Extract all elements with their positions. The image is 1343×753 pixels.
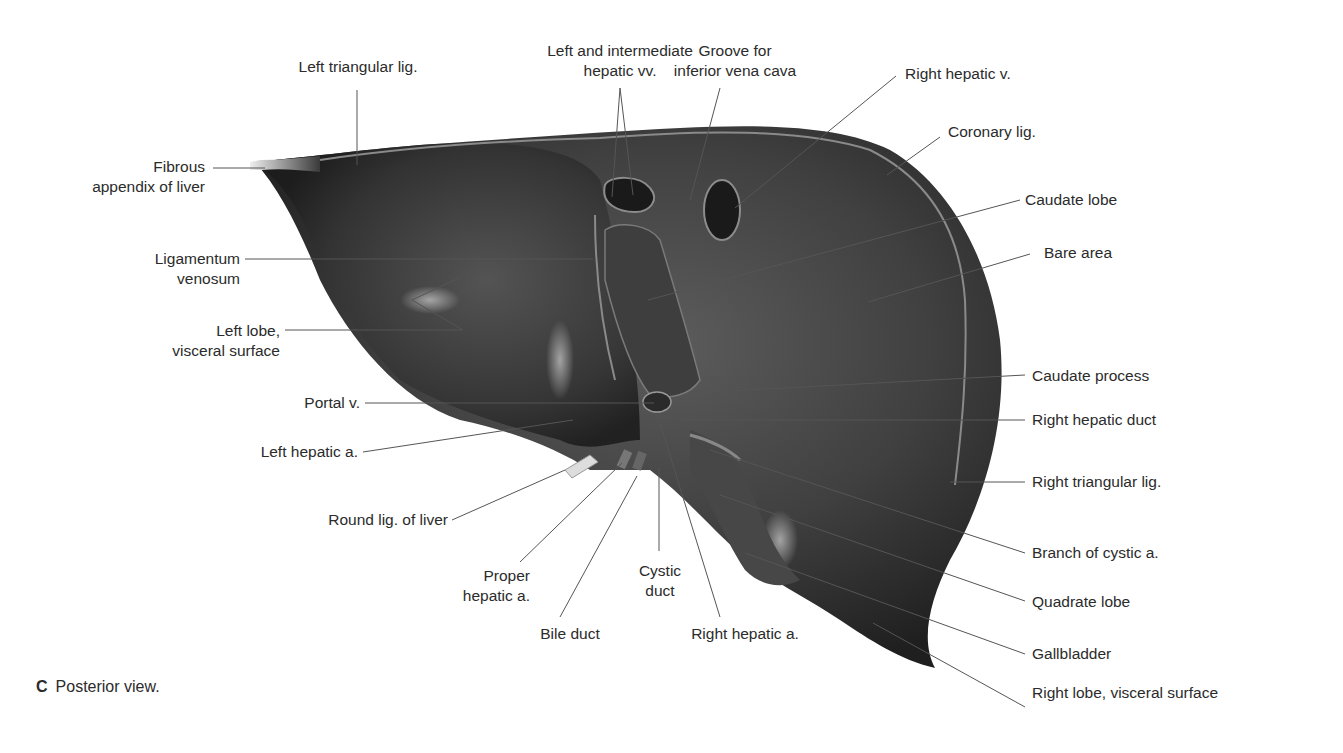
- label-line-1: Cystic: [630, 561, 690, 581]
- label-right-lobe-visceral: Right lobe, visceral surface: [1032, 683, 1218, 703]
- label-line-1: Ligamentum: [100, 249, 240, 269]
- right-hepatic-vein-opening: [704, 180, 740, 240]
- label-fibrous-appendix: Fibrous appendix of liver: [60, 157, 205, 197]
- label-gallbladder: Gallbladder: [1032, 644, 1111, 664]
- caption-letter: C: [36, 678, 48, 695]
- label-branch-cystic-a: Branch of cystic a.: [1032, 543, 1159, 563]
- label-line-1: Fibrous: [60, 157, 205, 177]
- label-bile-duct: Bile duct: [520, 624, 620, 644]
- figure-caption: CPosterior view.: [36, 678, 160, 696]
- label-line-2: visceral surface: [130, 341, 280, 361]
- caption-text: Posterior view.: [56, 678, 160, 695]
- label-caudate-lobe: Caudate lobe: [1025, 190, 1117, 210]
- label-groove-ivc: Groove for inferior vena cava: [665, 41, 805, 81]
- label-line-1: Proper: [440, 566, 530, 586]
- label-right-hepatic-a: Right hepatic a.: [670, 624, 820, 644]
- label-left-lobe-visceral: Left lobe, visceral surface: [130, 321, 280, 361]
- portal-vein-shape: [643, 392, 671, 412]
- label-line-1: Left lobe,: [130, 321, 280, 341]
- label-quadrate-lobe: Quadrate lobe: [1032, 592, 1130, 612]
- label-cystic-duct: Cystic duct: [630, 561, 690, 601]
- label-line-2: hepatic a.: [440, 586, 530, 606]
- label-line-2: duct: [630, 581, 690, 601]
- label-line-2: inferior vena cava: [665, 61, 805, 81]
- label-line-2: appendix of liver: [60, 177, 205, 197]
- label-caudate-process: Caudate process: [1032, 366, 1149, 386]
- label-left-hepatic-a: Left hepatic a.: [230, 442, 358, 462]
- label-right-triangular-lig: Right triangular lig.: [1032, 472, 1161, 492]
- label-proper-hepatic-a: Proper hepatic a.: [440, 566, 530, 606]
- label-line-2: venosum: [100, 269, 240, 289]
- label-line-1: Groove for: [665, 41, 805, 61]
- label-right-hepatic-v: Right hepatic v.: [905, 64, 1011, 84]
- figure-canvas: Left triangular lig. Left and intermedia…: [0, 0, 1343, 753]
- label-bare-area: Bare area: [1044, 243, 1112, 263]
- label-round-lig: Round lig. of liver: [270, 510, 448, 530]
- label-ligamentum-venosum: Ligamentum venosum: [100, 249, 240, 289]
- label-right-hepatic-duct: Right hepatic duct: [1032, 410, 1156, 430]
- label-portal-v: Portal v.: [240, 393, 360, 413]
- label-coronary-lig: Coronary lig.: [948, 122, 1036, 142]
- label-left-triangular-lig: Left triangular lig.: [238, 57, 478, 77]
